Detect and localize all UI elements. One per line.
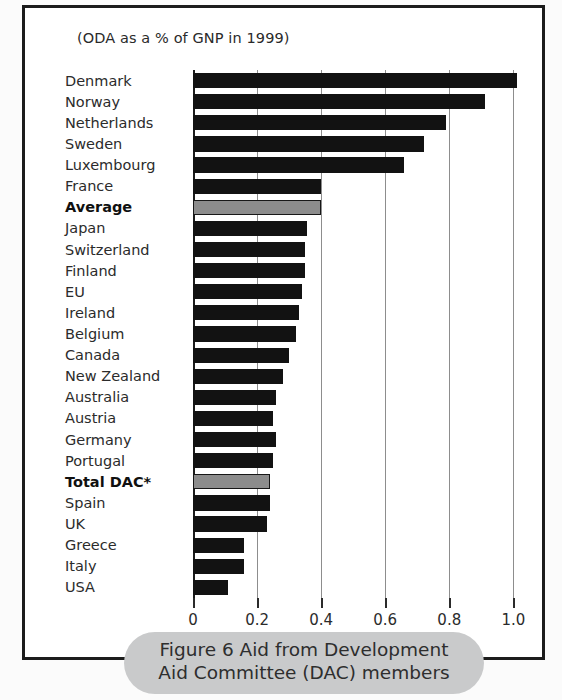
y-axis-label-portugal: Portugal: [65, 454, 183, 469]
bar-netherlands: [193, 115, 446, 130]
x-tick-0.4: [321, 598, 323, 608]
bar-finland: [193, 263, 305, 278]
y-axis-label-eu: EU: [65, 285, 183, 300]
y-axis-label-austria: Austria: [65, 411, 183, 426]
x-tick-label-0: 0: [188, 611, 198, 629]
x-axis-ticks: [193, 598, 539, 610]
bar-series: [193, 70, 539, 598]
x-tick-0: [193, 598, 195, 608]
x-tick-label-0.2: 0.2: [245, 611, 269, 629]
x-tick-1.0: [513, 598, 515, 608]
bar-germany: [193, 432, 276, 447]
x-tick-0.2: [257, 598, 259, 608]
y-axis-label-ireland: Ireland: [65, 306, 183, 321]
bar-italy: [193, 559, 244, 574]
bar-average: [193, 200, 321, 215]
bar-new-zealand: [193, 369, 283, 384]
bar-eu: [193, 284, 302, 299]
bar-portugal: [193, 453, 273, 468]
plot-area: [193, 70, 539, 598]
x-tick-label-0.4: 0.4: [309, 611, 333, 629]
chart-subtitle: (ODA as a % of GNP in 1999): [77, 30, 290, 46]
x-tick-label-1.0: 1.0: [501, 611, 525, 629]
y-axis-label-luxembourg: Luxembourg: [65, 158, 183, 173]
y-axis-label-norway: Norway: [65, 95, 183, 110]
y-axis-label-switzerland: Switzerland: [65, 243, 183, 258]
bar-france: [193, 179, 321, 194]
y-axis-label-australia: Australia: [65, 390, 183, 405]
bar-canada: [193, 348, 289, 363]
y-axis-labels: DenmarkNorwayNetherlandsSwedenLuxembourg…: [65, 70, 189, 598]
figure-caption: Figure 6 Aid from Development Aid Commit…: [124, 632, 484, 694]
y-axis-label-italy: Italy: [65, 559, 183, 574]
bar-denmark: [193, 73, 517, 88]
bar-norway: [193, 94, 485, 109]
y-axis-label-canada: Canada: [65, 348, 183, 363]
bar-uk: [193, 516, 267, 531]
y-axis-label-france: France: [65, 179, 183, 194]
bar-austria: [193, 411, 273, 426]
bar-belgium: [193, 326, 296, 341]
x-tick-0.8: [449, 598, 451, 608]
y-axis-label-japan: Japan: [65, 221, 183, 236]
x-tick-label-0.6: 0.6: [373, 611, 397, 629]
bar-spain: [193, 495, 270, 510]
y-axis-label-sweden: Sweden: [65, 137, 183, 152]
bar-ireland: [193, 305, 299, 320]
bar-japan: [193, 221, 307, 236]
y-axis-label-greece: Greece: [65, 538, 183, 553]
x-tick-0.6: [385, 598, 387, 608]
y-axis-label-denmark: Denmark: [65, 74, 183, 89]
y-axis-label-netherlands: Netherlands: [65, 116, 183, 131]
y-axis-label-uk: UK: [65, 517, 183, 532]
bar-usa: [193, 580, 228, 595]
bar-sweden: [193, 136, 424, 151]
bar-total-dac: [193, 474, 270, 489]
y-axis-label-usa: USA: [65, 580, 183, 595]
bar-luxembourg: [193, 157, 404, 172]
x-tick-label-0.8: 0.8: [437, 611, 461, 629]
y-axis-label-new-zealand: New Zealand: [65, 369, 183, 384]
figure-frame: (ODA as a % of GNP in 1999) DenmarkNorwa…: [22, 5, 545, 660]
y-axis-label-finland: Finland: [65, 264, 183, 279]
y-axis-label-belgium: Belgium: [65, 327, 183, 342]
bar-greece: [193, 538, 244, 553]
x-axis-tick-labels: 00.20.40.60.81.0: [193, 611, 539, 633]
y-axis-label-spain: Spain: [65, 496, 183, 511]
y-axis-label-total-dac: Total DAC*: [65, 475, 183, 490]
bar-australia: [193, 390, 276, 405]
bar-switzerland: [193, 242, 305, 257]
y-axis-label-germany: Germany: [65, 433, 183, 448]
y-axis-label-average: Average: [65, 200, 183, 215]
